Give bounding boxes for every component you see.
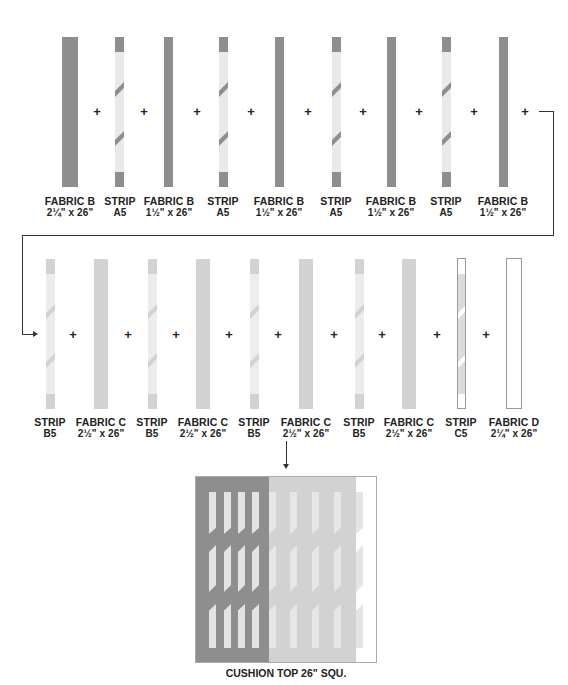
plus-icon: + [138,105,150,118]
fabric-b-piece [387,37,396,187]
strip-a5-piece [115,37,124,187]
piece-label: STRIPA5 [430,195,461,219]
strip-b5-piece [355,259,364,409]
plus-icon: + [480,328,492,341]
strip-a5-piece [219,37,228,187]
piece-label: FABRIC B1½" x 26" [144,195,194,219]
piece-label: STRIPB5 [343,416,374,440]
plus-icon: + [328,328,340,341]
fabric-c-piece [299,259,313,409]
plus-icon: + [191,105,203,118]
piece-label: FABRIC C2½" x 26" [76,416,126,440]
plus-icon: + [302,105,314,118]
strip-a5-piece [332,37,341,187]
piece-label: STRIPA5 [104,195,135,219]
plus-icon: + [67,328,79,341]
strip-b5-piece [250,259,259,409]
plus-icon: + [376,328,388,341]
strip-c5-piece [457,258,466,409]
fabric-d-piece [506,258,522,409]
piece-label: STRIPB5 [136,416,167,440]
plus-icon: + [519,105,531,118]
strip-b5-piece [46,259,55,409]
plus-icon: + [170,328,182,341]
fabric-b-piece [164,37,173,187]
fabric-c-piece [196,259,210,409]
piece-label: FABRIC B1½" x 26" [254,195,304,219]
plus-icon: + [431,328,443,341]
plus-icon: + [223,328,235,341]
arrow-right-icon [33,331,38,337]
plus-icon: + [357,105,369,118]
plus-icon: + [122,328,134,341]
fabric-b-piece [499,37,508,187]
plus-icon: + [245,105,257,118]
plus-icon: + [413,105,425,118]
fabric-b-piece [275,37,284,187]
piece-label: STRIPA5 [320,195,351,219]
strip-b5-piece [148,259,157,409]
piece-label: FABRIC B1½" x 26" [478,195,528,219]
piece-label: STRIPC5 [445,416,476,440]
strip-a5-piece [442,37,451,187]
piece-label: FABRIC C2½" x 26" [384,416,434,440]
piece-label: FABRIC B2¼" x 26" [45,195,95,219]
plus-icon: + [468,105,480,118]
cushion-top-preview [195,476,377,663]
piece-label: FABRIC C2½" x 26" [178,416,228,440]
piece-label: STRIPB5 [238,416,269,440]
fabric-c-piece [402,259,416,409]
piece-label: FABRIC C2½" x 26" [281,416,331,440]
plus-icon: + [272,328,284,341]
piece-label: STRIPA5 [207,195,238,219]
plus-icon: + [91,105,103,118]
cushion-top-label: CUSHION TOP 26" SQU. [226,667,347,679]
piece-label: FABRIC B1½" x 26" [366,195,416,219]
piece-label: STRIPB5 [34,416,65,440]
fabric-c-piece [94,259,108,409]
piece-label: FABRIC D2¼" x 26" [489,416,539,440]
fabric-b-piece [62,37,78,187]
